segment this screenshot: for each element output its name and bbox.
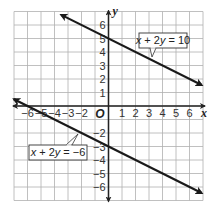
x-tick-label: 1 — [119, 107, 125, 119]
x-tick-label: −3 — [62, 107, 75, 119]
y-tick-label: −6 — [93, 181, 106, 193]
y-axis-label: y — [111, 4, 119, 18]
x-tick-label: 3 — [146, 107, 152, 119]
y-tick-label: 6 — [99, 19, 105, 31]
y-tick-label: −4 — [93, 154, 106, 166]
x-tick-label: 4 — [159, 107, 165, 119]
x-tick-label: 5 — [173, 107, 179, 119]
x-tick-label: 6 — [186, 107, 192, 119]
callout-pointer — [150, 48, 156, 57]
x-axis-label: x — [200, 106, 207, 120]
equation-text: x + 2y = −6 — [30, 146, 86, 158]
tick-labels: −6−5−4−3−2123456654321−2−3−4−5−6Oxy — [21, 4, 207, 194]
label-lower-equation: x + 2y = −6 — [29, 134, 87, 160]
equation-text: x + 2y = 10 — [135, 34, 190, 46]
y-tick-label: 2 — [99, 73, 105, 85]
line-start-arrow — [14, 99, 18, 101]
x-tick-label: −2 — [75, 107, 88, 119]
line-x-plus-2y-equals-10 — [61, 15, 201, 85]
y-tick-label: 3 — [99, 60, 105, 72]
origin-label: O — [95, 107, 105, 121]
y-tick-label: −2 — [93, 127, 106, 139]
y-tick-label: −5 — [93, 168, 106, 180]
y-tick-label: 1 — [99, 87, 105, 99]
y-tick-label: 4 — [99, 46, 105, 58]
line-start-arrow — [61, 15, 65, 17]
x-tick-label: 2 — [132, 107, 138, 119]
coordinate-graph: −6−5−4−3−2123456654321−2−3−4−5−6Oxy x + … — [0, 0, 214, 208]
